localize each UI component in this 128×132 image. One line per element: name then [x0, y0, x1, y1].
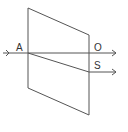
extraordinary-ray-inside: [28, 53, 89, 72]
birefringence-diagram: A O S: [0, 0, 128, 132]
crystal-parallelogram: [28, 8, 89, 115]
label-o: O: [94, 42, 102, 53]
label-s: S: [94, 60, 101, 71]
label-a: A: [16, 42, 23, 53]
